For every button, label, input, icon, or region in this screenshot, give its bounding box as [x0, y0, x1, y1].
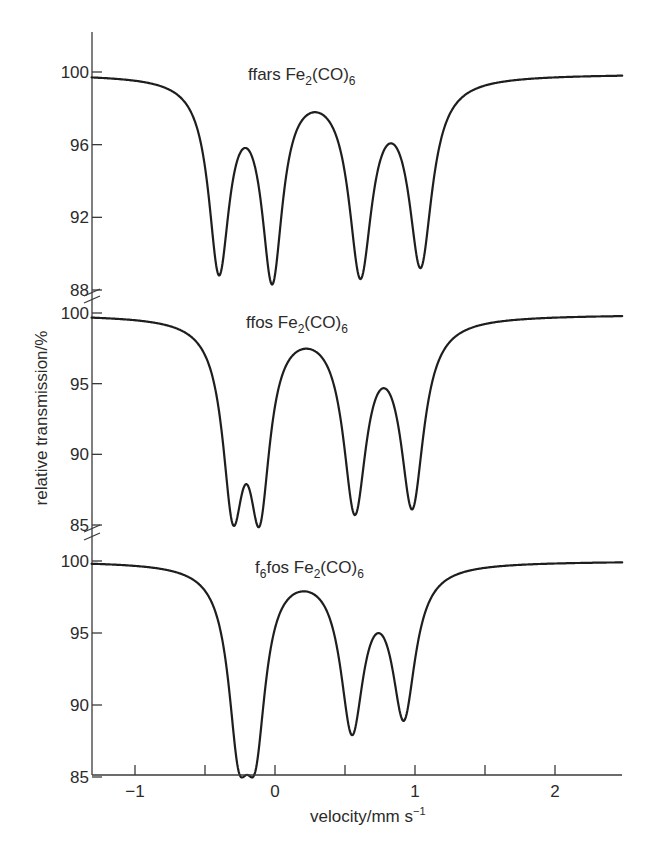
- y-axis-label: relative transmission/%: [32, 331, 51, 506]
- panel-title-ffos: ffos Fe2(CO)6: [246, 313, 348, 336]
- panel-ffos: 859095100 ffos Fe2(CO)6: [61, 304, 623, 535]
- y-tick-label: 95: [70, 624, 89, 643]
- y-ticks-f6fos: 859095100: [61, 552, 102, 787]
- y-tick-label: 100: [61, 552, 89, 571]
- spectrum-curve-f6fos: [92, 562, 623, 777]
- y-tick-label: 88: [70, 281, 89, 300]
- panel-title-f6fos: f6fos Fe2(CO)6: [255, 558, 364, 581]
- y-tick-label: 100: [61, 63, 89, 82]
- panel-f6fos: 859095100 f6fos Fe2(CO)6: [61, 552, 623, 787]
- y-tick-label: 90: [70, 696, 89, 715]
- panel-title-ffars: ffars Fe2(CO)6: [248, 65, 356, 88]
- y-tick-label: 92: [70, 208, 89, 227]
- mossbauer-spectra-figure: 889296100 ffars Fe2(CO)6 859095100 ffos …: [0, 0, 650, 855]
- y-tick-label: 95: [70, 375, 89, 394]
- x-axis-label: velocity/mm s−1: [310, 805, 426, 826]
- x-tick-label: 0: [270, 782, 279, 801]
- spectrum-curve-ffos: [92, 316, 623, 527]
- y-tick-label: 90: [70, 445, 89, 464]
- x-ticks: −1012: [125, 765, 559, 801]
- y-tick-label: 85: [70, 516, 89, 535]
- y-ticks-ffars: 889296100: [61, 63, 102, 300]
- panel-ffars: 889296100 ffars Fe2(CO)6: [61, 63, 623, 300]
- x-tick-label: 2: [550, 782, 559, 801]
- spectrum-curve-ffars: [92, 76, 623, 285]
- y-ticks-ffos: 859095100: [61, 304, 102, 535]
- y-tick-label: 85: [70, 768, 89, 787]
- x-tick-label: 1: [410, 782, 419, 801]
- x-tick-label: −1: [125, 782, 144, 801]
- y-tick-label: 96: [70, 136, 89, 155]
- y-tick-label: 100: [61, 304, 89, 323]
